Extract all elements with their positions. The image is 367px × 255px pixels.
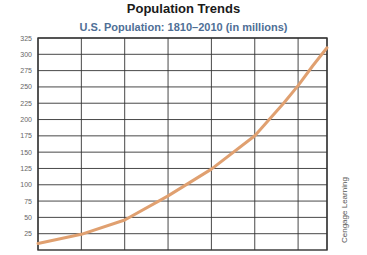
y-tick-label: 100 [20, 181, 32, 188]
y-tick-label: 25 [24, 230, 32, 237]
y-tick-label: 50 [24, 214, 32, 221]
y-tick-label: 75 [24, 198, 32, 205]
line-chart: 255075100125150175200225250275300325 [0, 0, 367, 255]
y-tick-label: 325 [20, 35, 32, 42]
y-tick-label: 175 [20, 132, 32, 139]
y-tick-label: 150 [20, 149, 32, 156]
y-tick-label: 225 [20, 100, 32, 107]
y-tick-label: 250 [20, 83, 32, 90]
y-tick-label: 125 [20, 165, 32, 172]
y-tick-label: 200 [20, 116, 32, 123]
y-tick-label: 300 [20, 51, 32, 58]
y-tick-label: 275 [20, 67, 32, 74]
credit-text: Cengage Learning [340, 177, 349, 243]
